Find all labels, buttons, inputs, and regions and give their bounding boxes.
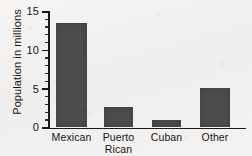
y-tick-label-5: 5 <box>33 84 39 95</box>
bar-chart-figure: Population in millions 0 5 10 15 Mexican… <box>0 0 252 156</box>
y-tick-major-0 <box>42 127 49 129</box>
y-tick-label-10: 10 <box>27 45 39 56</box>
y-tick-label-15: 15 <box>27 6 39 17</box>
y-axis-title: Population in millions <box>11 0 23 127</box>
x-axis-line <box>48 128 246 130</box>
y-tick-minor-3 <box>45 104 50 105</box>
y-tick-label-0: 0 <box>33 122 39 133</box>
y-tick-minor-4 <box>45 96 50 97</box>
y-tick-major-15 <box>42 11 49 13</box>
y-tick-minor-11 <box>45 42 50 43</box>
bar-cuban <box>152 120 181 128</box>
x-axis-label-cuban-line1: Cuban <box>151 131 182 143</box>
x-axis-label-puerto-rican-line1: Puerto <box>103 131 135 143</box>
y-tick-major-5 <box>42 88 49 90</box>
y-tick-major-10 <box>42 50 49 52</box>
x-axis-label-other-line1: Other <box>202 131 229 143</box>
bar-other <box>200 88 230 127</box>
y-tick-minor-14 <box>45 19 50 20</box>
x-axis-label-mexican-line1: Mexican <box>52 131 92 143</box>
y-tick-minor-2 <box>45 112 50 113</box>
y-tick-minor-7 <box>45 73 50 74</box>
bar-mexican <box>56 23 87 127</box>
bar-puerto-rican <box>104 107 133 128</box>
x-axis-label-puerto-rican-line2: Rican <box>89 144 148 156</box>
y-tick-minor-6 <box>45 81 50 82</box>
y-tick-minor-9 <box>45 57 50 58</box>
y-tick-minor-1 <box>45 119 50 120</box>
y-tick-minor-8 <box>45 65 50 66</box>
x-axis-label-other: Other <box>186 132 244 144</box>
y-tick-minor-12 <box>45 34 50 35</box>
y-tick-minor-13 <box>45 26 50 27</box>
